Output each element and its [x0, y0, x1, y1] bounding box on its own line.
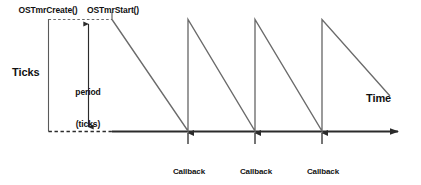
period-label-line-1: period [62, 87, 114, 98]
period-label: period (ticks) [62, 66, 114, 151]
x-axis-label-time: Time [366, 92, 406, 105]
timer-timing-diagram: OSTmrCreate() OSTmrStart() Ticks Time pe… [0, 0, 421, 185]
callback-label-2: Callback Called [229, 146, 283, 185]
y-axis-label-ticks: Ticks [12, 66, 58, 79]
timer-sawtooth-waveform [112, 20, 390, 132]
callback-label-1: Callback Called [162, 146, 216, 185]
callback-label-3: Callback Called [296, 146, 350, 185]
period-label-line-2: (ticks) [62, 119, 114, 130]
callback-label-line-1: Callback [229, 167, 283, 177]
ostmrstart-label: OSTmrStart() [78, 6, 148, 16]
callback-label-line-1: Callback [296, 167, 350, 177]
callback-label-line-1: Callback [162, 167, 216, 177]
